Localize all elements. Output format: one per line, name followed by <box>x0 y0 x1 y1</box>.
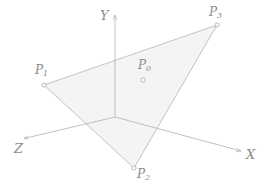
point-label-p3-base: P <box>209 5 217 19</box>
point-label-p0-subscript: 0 <box>146 64 151 73</box>
axis-label-x: X <box>246 148 255 161</box>
point-label-p0-base: P <box>138 58 146 72</box>
triangle-face <box>44 25 217 168</box>
point-label-p2: P2 <box>137 168 150 180</box>
point-label-p2-subscript: 2 <box>145 173 150 182</box>
point-label-p1-subscript: 1 <box>43 69 48 78</box>
point-label-p3-subscript: 3 <box>217 11 222 20</box>
axis-label-y: Y <box>100 9 109 22</box>
point-label-p3: P3 <box>209 6 222 18</box>
point-label-p2-base: P <box>137 167 145 181</box>
point-label-p1: P1 <box>35 64 48 76</box>
point-marker-p3 <box>215 23 219 27</box>
coordinate-diagram: Y X Z P1 P2 P3 P0 <box>0 0 268 186</box>
diagram-canvas <box>0 0 268 186</box>
point-label-p1-base: P <box>35 63 43 77</box>
point-marker-p0 <box>141 78 145 82</box>
point-label-p0: P0 <box>138 59 151 71</box>
point-marker-p2 <box>132 166 136 170</box>
axis-label-z: Z <box>14 142 23 155</box>
point-marker-p1 <box>42 83 46 87</box>
